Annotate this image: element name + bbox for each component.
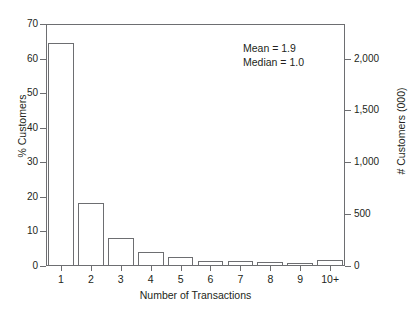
- tick-value: 50: [4, 88, 38, 98]
- bar-slot: [166, 24, 196, 266]
- x-tick-slot: [106, 266, 136, 271]
- y-axis-left-tick: [40, 24, 46, 25]
- x-axis-tick: [61, 266, 62, 271]
- x-tick-slot: [76, 266, 106, 271]
- tick-value: 30: [4, 157, 38, 167]
- y-axis-left-tick-label: 40: [0, 123, 38, 133]
- x-axis-tick: [270, 266, 271, 271]
- y-axis-left-tick-label: 30: [0, 157, 38, 167]
- y-axis-left-tick: [40, 128, 46, 129]
- tick-value: 0: [4, 261, 38, 271]
- tick-value: 60: [4, 54, 38, 64]
- y-axis-left-tick: [40, 162, 46, 163]
- tick-value: 0: [354, 261, 398, 271]
- y-axis-left-tick-label: 50: [0, 88, 38, 98]
- bar-slot: [136, 24, 166, 266]
- y-axis-left-tick-label: 60: [0, 54, 38, 64]
- x-axis-tick-label: 9: [285, 273, 315, 285]
- bar: [78, 203, 104, 266]
- x-tick-slot: [255, 266, 285, 271]
- tick-value: 20: [4, 192, 38, 202]
- y-axis-left-tick-label: 70: [0, 19, 38, 29]
- y-axis-right-tick: [345, 162, 351, 163]
- x-axis-tick-label: 4: [136, 273, 166, 285]
- x-axis-title: Number of Transactions: [46, 289, 345, 301]
- y-axis-left-tick-label: 10: [0, 226, 38, 236]
- y-axis-right-tick-label: 1,000: [354, 157, 398, 167]
- statistics-annotation: Mean = 1.9 Median = 1.0: [243, 41, 304, 69]
- x-axis-tick-label: 2: [76, 273, 106, 285]
- bar-slot: [46, 24, 76, 266]
- x-tick-slot: [46, 266, 76, 271]
- bar: [138, 252, 164, 266]
- x-axis-tick: [91, 266, 92, 271]
- chart-figure: Customers in 2011 12345678910+ Number of…: [0, 0, 411, 319]
- x-axis-tick: [181, 266, 182, 271]
- y-axis-right-tick-label: 2,000: [354, 54, 398, 64]
- y-axis-left-tick: [40, 266, 46, 267]
- bar-slot: [315, 24, 345, 266]
- x-tick-slot: [136, 266, 166, 271]
- y-axis-right-tick: [345, 110, 351, 111]
- mean-label: Mean = 1.9: [243, 41, 304, 55]
- y-axis-right-tick: [345, 59, 351, 60]
- x-axis-tick-label: 7: [225, 273, 255, 285]
- y-axis-right-tick: [345, 214, 351, 215]
- y-axis-left-tick: [40, 93, 46, 94]
- x-tick-slot: [196, 266, 226, 271]
- x-tick-slot: [166, 266, 196, 271]
- bar: [168, 257, 194, 266]
- x-axis-tick: [300, 266, 301, 271]
- y-axis-right-tick-label: 500: [354, 209, 398, 219]
- chart-title: Customers in 2011: [8, 0, 90, 2]
- tick-value: 40: [4, 123, 38, 133]
- tick-value: 500: [354, 209, 398, 219]
- y-axis-left-tick-label: 20: [0, 192, 38, 202]
- bar-slot: [76, 24, 106, 266]
- x-axis-tick-labels: 12345678910+: [46, 273, 345, 285]
- y-axis-left-tick: [40, 231, 46, 232]
- y-axis-right-tick-label: 1,500: [354, 105, 398, 115]
- y-axis-right-tick-label: 0: [354, 261, 398, 271]
- y-axis-left-tick: [40, 197, 46, 198]
- x-axis-tick-label: 1: [46, 273, 76, 285]
- x-axis-tick-label: 10+: [315, 273, 345, 285]
- median-label: Median = 1.0: [243, 55, 304, 69]
- tick-value: 10: [4, 226, 38, 236]
- x-tick-slot: [285, 266, 315, 271]
- x-tick-slot: [225, 266, 255, 271]
- tick-value: 1,500: [354, 105, 398, 115]
- y-axis-right-title: # Customers (000): [395, 61, 407, 201]
- y-axis-left-tick: [40, 59, 46, 60]
- x-axis-tick-label: 6: [196, 273, 226, 285]
- bar-slot: [196, 24, 226, 266]
- y-axis-left-tick-label: 0: [0, 261, 38, 271]
- bar: [48, 43, 74, 266]
- bar: [108, 238, 134, 266]
- x-axis-tick: [330, 266, 331, 271]
- tick-value: 2,000: [354, 54, 398, 64]
- x-axis-tick: [151, 266, 152, 271]
- bar-slot: [106, 24, 136, 266]
- x-axis-ticks: [46, 266, 345, 271]
- x-axis-tick-label: 5: [166, 273, 196, 285]
- x-axis-tick: [240, 266, 241, 271]
- x-axis-tick: [210, 266, 211, 271]
- tick-value: 70: [4, 19, 38, 29]
- x-axis-tick: [121, 266, 122, 271]
- tick-value: 1,000: [354, 157, 398, 167]
- x-axis-tick-label: 3: [106, 273, 136, 285]
- y-axis-right-tick: [345, 266, 351, 267]
- x-axis-tick-label: 8: [255, 273, 285, 285]
- x-tick-slot: [315, 266, 345, 271]
